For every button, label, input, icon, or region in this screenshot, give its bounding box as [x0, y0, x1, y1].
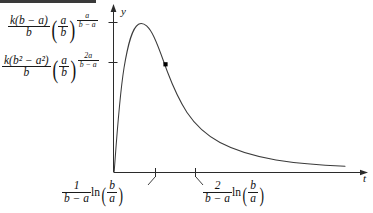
y-axis-arrowhead: [111, 4, 117, 12]
plot-area: [0, 0, 373, 213]
leader-line-inflection: [196, 177, 203, 185]
inflection-point-marker: [163, 62, 167, 66]
response-curve: [114, 23, 345, 171]
figure-canvas: k(b − a) b (ab)ab − a k(b² − a²) b (ab)2…: [0, 0, 373, 213]
x-axis-arrowhead: [360, 170, 368, 176]
leader-line-peak: [148, 177, 155, 185]
